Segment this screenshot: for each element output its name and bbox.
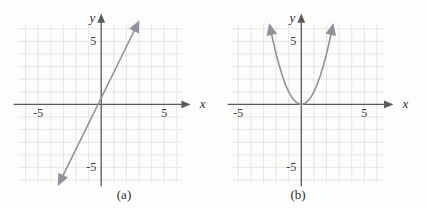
graph-a-line-plot: -555-5xy <box>6 3 212 189</box>
graph-b-parabola-plot: -555-5xy <box>220 3 426 189</box>
svg-text:5: 5 <box>361 106 367 120</box>
svg-text:5: 5 <box>161 106 167 120</box>
svg-text:y: y <box>288 10 296 25</box>
svg-text:-5: -5 <box>233 106 243 120</box>
svg-text:5: 5 <box>290 34 296 48</box>
svg-text:-5: -5 <box>86 160 96 174</box>
axis-labels: xy <box>288 10 409 112</box>
svg-text:x: x <box>199 96 206 111</box>
svg-text:-5: -5 <box>286 160 296 174</box>
axis-labels: xy <box>87 10 205 112</box>
panel-b-caption: (b) <box>276 187 320 203</box>
svg-text:x: x <box>401 96 408 111</box>
panel-b: -555-5xy <box>220 3 426 189</box>
svg-text:5: 5 <box>90 34 96 48</box>
svg-text:-5: -5 <box>33 106 43 120</box>
panel-a: -555-5xy <box>6 3 212 189</box>
panel-a-caption: (a) <box>102 187 146 203</box>
figure-two-graphs: -555-5xy -555-5xy (a) (b) <box>0 0 426 208</box>
svg-text:y: y <box>87 10 95 25</box>
